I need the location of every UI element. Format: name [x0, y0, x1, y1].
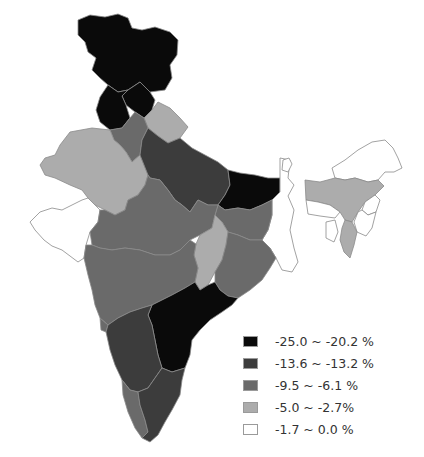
region-mizoram — [340, 220, 357, 258]
legend-label: -5.0 ~ -2.7% — [275, 400, 354, 415]
legend-swatch-medium — [243, 380, 258, 391]
legend-item: -1.7 ~ 0.0 % — [243, 418, 374, 440]
legend-item: -9.5 ~ -6.1 % — [243, 374, 374, 396]
map-legend: -25.0 ~ -20.2 % -13.6 ~ -13.2 % -9.5 ~ -… — [243, 330, 374, 440]
legend-swatch-dark — [243, 358, 258, 369]
legend-swatch-darkest — [243, 336, 258, 347]
legend-label: -9.5 ~ -6.1 % — [275, 378, 358, 393]
legend-item: -25.0 ~ -20.2 % — [243, 330, 374, 352]
legend-swatch-white — [243, 424, 258, 435]
legend-item: -13.6 ~ -13.2 % — [243, 352, 374, 374]
legend-label: -1.7 ~ 0.0 % — [275, 422, 354, 437]
legend-label: -25.0 ~ -20.2 % — [275, 334, 374, 349]
legend-label: -13.6 ~ -13.2 % — [275, 356, 374, 371]
region-punjab — [96, 85, 130, 130]
legend-item: -5.0 ~ -2.7% — [243, 396, 374, 418]
region-sikkim — [282, 158, 292, 172]
region-jammu-kashmir — [78, 14, 178, 92]
region-tripura — [326, 220, 338, 242]
legend-swatch-light — [243, 402, 258, 413]
region-arunachal-pradesh — [332, 140, 402, 182]
